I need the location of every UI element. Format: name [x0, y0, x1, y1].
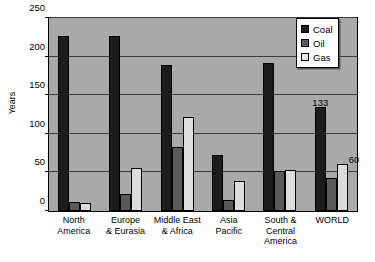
bar-oil	[172, 147, 183, 211]
bar-coal	[109, 36, 120, 212]
bar-value-label: 133	[312, 97, 328, 108]
legend-label-gas: Gas	[313, 52, 330, 63]
bar-group	[49, 18, 100, 211]
bar-gas: 60	[337, 164, 348, 211]
x-axis-category-labels: NorthAmericaEurope& EurasiaMiddle East& …	[48, 215, 358, 247]
x-axis-category-label: Europe& Eurasia	[100, 215, 152, 247]
bar-oil	[274, 171, 285, 211]
bar-gas	[131, 168, 142, 211]
x-axis-category-label: Middle East& Africa	[151, 215, 203, 247]
bar-gas	[183, 117, 194, 211]
bar-value-label: 60	[349, 154, 360, 165]
x-axis-category-label: WORLD	[306, 215, 358, 247]
legend: Coal Oil Gas	[296, 18, 339, 68]
legend-swatch-gas	[301, 53, 309, 61]
bar-group	[152, 18, 203, 211]
legend-label-coal: Coal	[313, 24, 333, 35]
legend-swatch-coal	[301, 25, 309, 33]
bar-chart: Years 050100150200250 1334260 NorthAmeri…	[0, 0, 375, 262]
bar-oil	[223, 200, 234, 211]
bar-group	[100, 18, 151, 211]
bar-oil	[69, 202, 80, 211]
legend-swatch-oil	[301, 39, 309, 47]
legend-item-coal: Coal	[301, 22, 333, 36]
x-axis-category-label: NorthAmerica	[48, 215, 100, 247]
bar-oil	[120, 194, 131, 211]
y-axis-tick-label: 0	[5, 195, 45, 206]
bar-gas	[285, 170, 296, 211]
bar-coal	[161, 65, 172, 211]
bar-oil: 42	[326, 178, 337, 211]
y-axis-tick-label: 200	[5, 40, 45, 51]
y-axis-tick-label: 100	[5, 117, 45, 128]
legend-item-oil: Oil	[301, 36, 333, 50]
bar-gas	[80, 203, 91, 211]
y-axis-tick-label: 250	[5, 2, 45, 13]
bar-coal: 133	[315, 107, 326, 211]
bar-coal	[212, 155, 223, 211]
y-axis-tick-label: 50	[5, 156, 45, 167]
bar-coal	[58, 36, 69, 212]
x-axis-category-label: South &CentralAmerica	[255, 215, 307, 247]
bar-group	[203, 18, 254, 211]
y-axis-tick-label: 150	[5, 79, 45, 90]
bar-gas	[234, 181, 245, 211]
legend-item-gas: Gas	[301, 50, 333, 64]
x-axis-category-label: AsiaPacific	[203, 215, 255, 247]
bar-coal	[263, 63, 274, 211]
legend-label-oil: Oil	[313, 38, 325, 49]
